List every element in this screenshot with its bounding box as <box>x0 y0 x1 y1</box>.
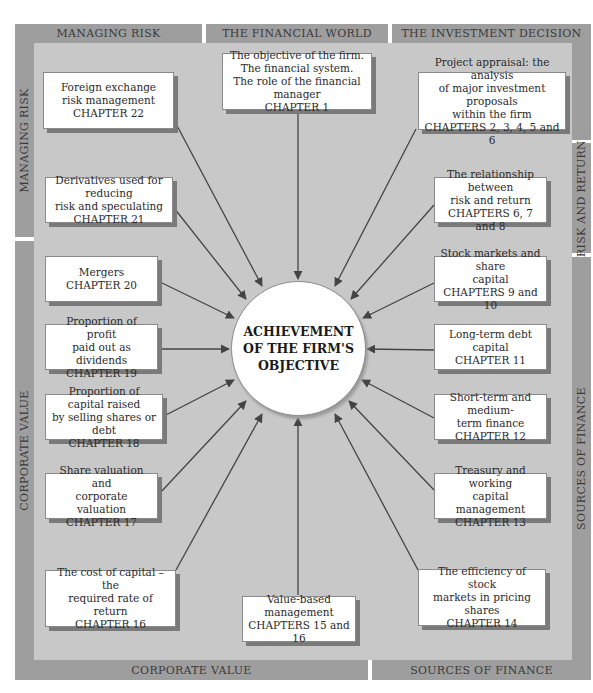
central-objective-circle: ACHIEVEMENT OF THE FIRM'S OBJECTIVE <box>231 281 366 416</box>
box-text: CHAPTER 16 <box>75 618 146 631</box>
box-text: CHAPTER 19 <box>66 367 137 380</box>
band-label: CORPORATE VALUE <box>131 664 251 677</box>
box-chapter-21: Derivatives used for reducing risk and s… <box>45 177 173 223</box>
box-chapter-11: Long-term debt capital CHAPTER 11 <box>434 324 547 370</box>
band-label: MANAGING RISK <box>18 88 31 192</box>
box-text: The objective of the firm. <box>230 49 364 62</box>
box-text: The cost of capital – the <box>50 566 171 592</box>
band-label: RISK AND RETURN <box>575 139 588 256</box>
box-chapter-17: Share valuation and corporate valuation … <box>45 473 158 519</box>
box-chapter-16: The cost of capital – the required rate … <box>45 570 176 627</box>
box-text: Long-term debt capital <box>439 328 542 354</box>
box-text: CHAPTER 13 <box>455 516 526 529</box>
box-text: CHAPTER 1 <box>265 101 329 114</box>
box-text: Treasury and working <box>439 464 542 490</box>
box-chapters-2-6: Project appraisal: the analysis of major… <box>418 72 566 130</box>
band-top-investment-decision: THE INVESTMENT DECISION <box>392 24 591 43</box>
band-label: THE FINANCIAL WORLD <box>222 27 372 40</box>
box-text: Share valuation and <box>50 464 153 490</box>
center-text: OF THE FIRM'S <box>243 340 354 357</box>
band-right-investment-decision <box>572 43 591 140</box>
center-text: OBJECTIVE <box>258 357 339 374</box>
box-text: CHAPTER 18 <box>68 437 139 450</box>
box-text: capital management <box>439 490 542 516</box>
band-bottom-corporate-value: CORPORATE VALUE <box>15 660 368 680</box>
box-chapters-6-8: The relationship between risk and return… <box>434 177 547 223</box>
box-chapters-15-16: Value-based management CHAPTERS 15 and 1… <box>242 596 356 642</box>
band-top-managing-risk: MANAGING RISK <box>15 24 202 43</box>
center-text: ACHIEVEMENT <box>243 323 353 340</box>
box-text: capital <box>472 273 508 286</box>
box-text: within the firm <box>452 108 531 121</box>
box-text: corporate valuation <box>50 490 153 516</box>
box-text: CHAPTER 22 <box>73 107 144 120</box>
box-text: CHAPTERS 2, 3, 4, 5 and 6 <box>423 121 561 147</box>
box-text: Short-term and medium- <box>439 391 542 417</box>
band-right-sources-of-finance: SOURCES OF FINANCE <box>572 257 591 660</box>
box-chapters-9-10: Stock markets and share capital CHAPTERS… <box>434 256 547 302</box>
box-text: Foreign exchange <box>61 81 156 94</box>
band-label: SOURCES OF FINANCE <box>410 664 553 677</box>
box-text: paid out as dividends <box>50 341 153 367</box>
box-text: CHAPTER 21 <box>73 213 144 226</box>
box-text: markets in pricing shares <box>423 591 541 617</box>
box-text: risk and speculating <box>55 200 163 213</box>
box-chapter-22: Foreign exchange risk management CHAPTER… <box>43 72 174 129</box>
box-chapter-1: The objective of the firm. The financial… <box>222 53 372 110</box>
band-label: CORPORATE VALUE <box>18 390 31 510</box>
box-text: Proportion of capital raised <box>50 385 158 411</box>
band-left-corporate-value: CORPORATE VALUE <box>15 241 34 660</box>
band-right-risk-and-return: RISK AND RETURN <box>572 143 591 253</box>
box-text: Proportion of profit <box>50 315 153 341</box>
box-chapter-18: Proportion of capital raised by selling … <box>45 394 163 440</box>
band-label: MANAGING RISK <box>56 27 160 40</box>
box-text: CHAPTER 12 <box>455 430 526 443</box>
box-text: risk and return <box>450 194 531 207</box>
box-text: of major investment proposals <box>423 82 561 108</box>
box-text: CHAPTER 14 <box>446 617 517 630</box>
box-text: term finance <box>457 417 525 430</box>
box-text: required rate of return <box>50 592 171 618</box>
box-text: The role of the financial manager <box>227 75 367 101</box>
box-chapter-13: Treasury and working capital management … <box>434 473 547 519</box>
box-text: by selling shares or debt <box>50 411 158 437</box>
box-text: The financial system. <box>241 62 354 75</box>
box-text: CHAPTER 17 <box>66 516 137 529</box>
box-text: CHAPTER 11 <box>455 354 526 367</box>
box-text: risk management <box>62 94 155 107</box>
band-left-managing-risk: MANAGING RISK <box>15 43 34 237</box>
box-text: The relationship between <box>439 168 542 194</box>
band-label: SOURCES OF FINANCE <box>575 387 588 530</box>
box-text: CHAPTERS 15 and 16 <box>247 619 351 645</box>
box-text: The efficiency of stock <box>423 565 541 591</box>
box-text: Mergers <box>79 266 124 279</box>
band-label: THE INVESTMENT DECISION <box>401 27 581 40</box>
box-text: Project appraisal: the analysis <box>423 56 561 82</box>
box-chapter-20: Mergers CHAPTER 20 <box>45 256 158 302</box>
box-text: Stock markets and share <box>439 247 542 273</box>
box-text: CHAPTER 20 <box>66 279 137 292</box>
box-text: Value-based management <box>247 593 351 619</box>
box-chapter-12: Short-term and medium- term finance CHAP… <box>434 394 547 440</box>
box-text: Derivatives used for reducing <box>50 174 168 200</box>
band-top-financial-world: THE FINANCIAL WORLD <box>206 24 388 43</box>
box-text: CHAPTERS 9 and 10 <box>439 286 542 312</box>
box-chapter-19: Proportion of profit paid out as dividen… <box>45 324 158 370</box>
band-bottom-sources-of-finance: SOURCES OF FINANCE <box>372 660 591 680</box>
box-chapter-14: The efficiency of stock markets in prici… <box>418 569 546 626</box>
box-text: CHAPTERS 6, 7 and 8 <box>439 207 542 233</box>
